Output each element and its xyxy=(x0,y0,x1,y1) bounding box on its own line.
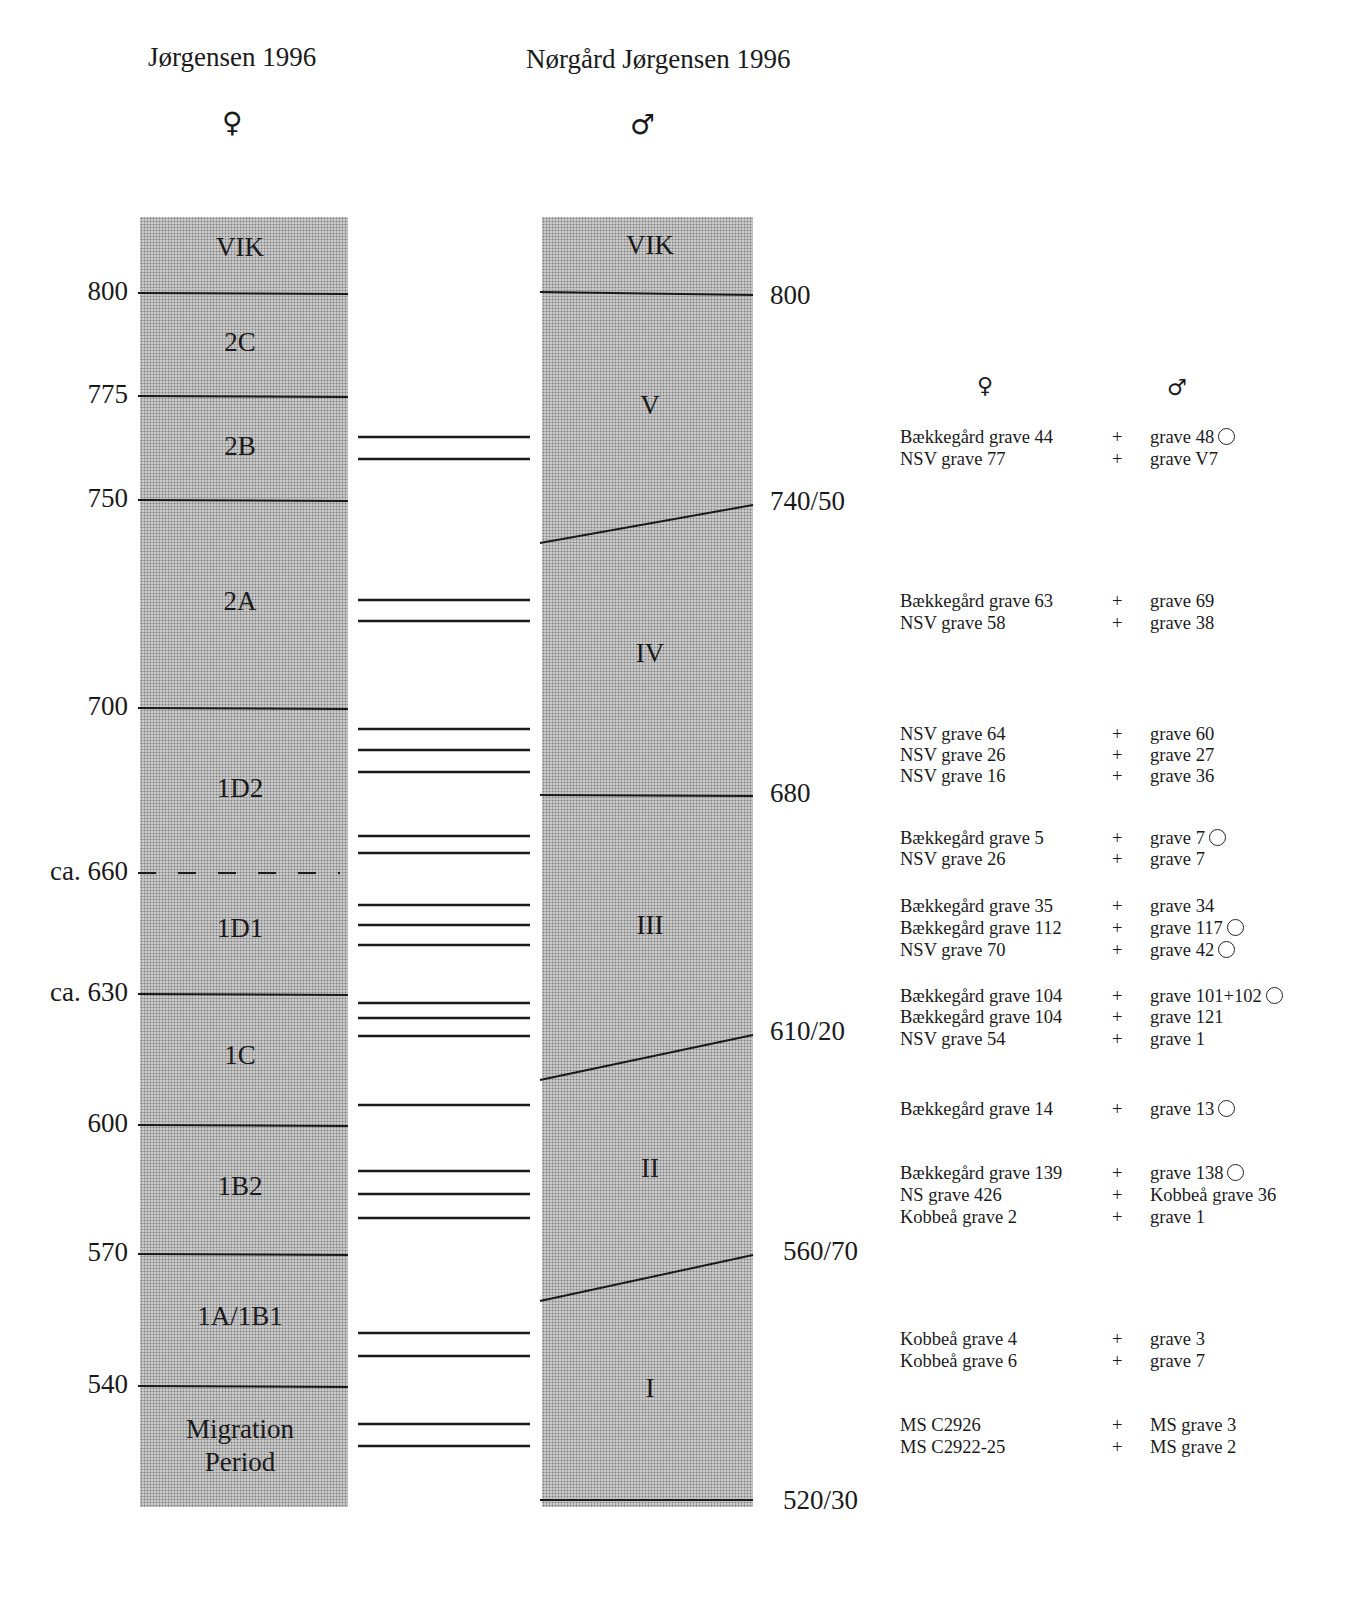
grave-pair-row: Kobbeå grave 6+grave 7 xyxy=(900,1350,1320,1372)
female-grave: Bækkegård grave 63 xyxy=(900,590,1053,612)
grave-pair-row: MS C2926+MS grave 3 xyxy=(900,1414,1320,1436)
left-phase-label: 2A xyxy=(224,586,257,617)
male-grave: grave 13 xyxy=(1150,1099,1214,1119)
circle-marker-icon xyxy=(1227,1164,1244,1181)
right-phase-label: III xyxy=(637,910,664,941)
female-grave: NSV grave 58 xyxy=(900,612,1006,634)
male-grave: MS grave 3 xyxy=(1150,1415,1236,1435)
grave-pair-row: Bækkegård grave 5+grave 7 xyxy=(900,827,1320,849)
right-boundary-line xyxy=(540,795,753,796)
plus-sign: + xyxy=(1112,765,1122,787)
male-grave: grave 60 xyxy=(1150,724,1214,744)
left-phase-label: 1C xyxy=(224,1040,256,1071)
plus-sign: + xyxy=(1112,827,1122,849)
female-grave: NSV grave 26 xyxy=(900,848,1006,870)
female-grave: Bækkegård grave 14 xyxy=(900,1098,1053,1120)
female-grave: Bækkegård grave 35 xyxy=(900,895,1053,917)
grave-pair-row: MS C2922-25+MS grave 2 xyxy=(900,1436,1320,1458)
plus-sign: + xyxy=(1112,1436,1122,1458)
female-grave: NSV grave 64 xyxy=(900,723,1006,745)
right-date-label: 740/50 xyxy=(770,486,845,517)
male-grave: grave 48 xyxy=(1150,427,1214,447)
female-grave: MS C2926 xyxy=(900,1414,981,1436)
plus-sign: + xyxy=(1112,448,1122,470)
left-date-label: 540 xyxy=(88,1369,129,1400)
plus-sign: + xyxy=(1112,1162,1122,1184)
grave-pair-row: Kobbeå grave 2+grave 1 xyxy=(900,1206,1320,1228)
male-grave: grave 1 xyxy=(1150,1207,1205,1227)
grave-pair-row: Bækkegård grave 139+grave 138 xyxy=(900,1162,1320,1184)
left-phase-label: Period xyxy=(205,1446,276,1479)
grave-pair-row: Bækkegård grave 44+grave 48 xyxy=(900,426,1320,448)
male-grave: grave 101+102 xyxy=(1150,986,1262,1006)
plus-sign: + xyxy=(1112,895,1122,917)
plus-sign: + xyxy=(1112,1006,1122,1028)
left-date-label: 775 xyxy=(88,379,129,410)
circle-marker-icon xyxy=(1227,919,1244,936)
male-grave: grave 7 xyxy=(1150,1351,1205,1371)
grave-pair-row: NSV grave 70+grave 42 xyxy=(900,939,1320,961)
male-grave: grave 117 xyxy=(1150,918,1223,938)
plus-sign: + xyxy=(1112,1328,1122,1350)
female-grave: NSV grave 16 xyxy=(900,765,1006,787)
grave-pair-row: Bækkegård grave 112+grave 117 xyxy=(900,917,1320,939)
left-boundary-line xyxy=(138,1386,348,1387)
plus-sign: + xyxy=(1112,612,1122,634)
left-date-label: 600 xyxy=(88,1108,129,1139)
grave-pair-row: Bækkegård grave 63+grave 69 xyxy=(900,590,1320,612)
female-grave: Kobbeå grave 2 xyxy=(900,1206,1017,1228)
pairs-female-header-icon: ♀ xyxy=(977,373,993,398)
right-date-label: 680 xyxy=(770,778,811,809)
grave-pair-row: Bækkegård grave 35+grave 34 xyxy=(900,895,1320,917)
plus-sign: + xyxy=(1112,939,1122,961)
grave-pair-row: Bækkegård grave 104+grave 121 xyxy=(900,1006,1320,1028)
female-grave: NSV grave 77 xyxy=(900,448,1006,470)
plus-sign: + xyxy=(1112,426,1122,448)
left-boundary-line xyxy=(138,994,348,995)
grave-pair-row: NSV grave 26+grave 27 xyxy=(900,744,1320,766)
left-phase-label: 1D2 xyxy=(217,773,264,804)
male-grave: grave 7 xyxy=(1150,849,1205,869)
grave-pair-row: NSV grave 64+grave 60 xyxy=(900,723,1320,745)
left-boundary-line xyxy=(138,293,348,294)
right-phase-label: IV xyxy=(636,638,665,669)
female-grave: Bækkegård grave 5 xyxy=(900,827,1044,849)
male-grave: grave V7 xyxy=(1150,449,1218,469)
right-boundary-line xyxy=(540,1255,753,1301)
female-grave: NS grave 426 xyxy=(900,1184,1002,1206)
grave-pair-row: Bækkegård grave 14+grave 13 xyxy=(900,1098,1320,1120)
left-boundary-line xyxy=(138,1125,348,1126)
left-phase-label: Migration xyxy=(186,1413,294,1446)
right-boundary-line xyxy=(540,292,753,295)
circle-marker-icon xyxy=(1209,829,1226,846)
circle-marker-icon xyxy=(1266,987,1283,1004)
female-grave: NSV grave 26 xyxy=(900,744,1006,766)
left-boundary-line xyxy=(138,500,348,501)
grave-pair-row: Bækkegård grave 104+grave 101+102 xyxy=(900,985,1320,1007)
right-phase-label: I xyxy=(646,1373,655,1404)
right-date-label: 800 xyxy=(770,280,811,311)
plus-sign: + xyxy=(1112,1414,1122,1436)
male-grave: grave 38 xyxy=(1150,613,1214,633)
plus-sign: + xyxy=(1112,744,1122,766)
female-grave: NSV grave 54 xyxy=(900,1028,1006,1050)
plus-sign: + xyxy=(1112,985,1122,1007)
right-boundary-line xyxy=(540,505,753,543)
female-grave: Kobbeå grave 4 xyxy=(900,1328,1017,1350)
left-boundary-line xyxy=(138,708,348,709)
male-grave: grave 7 xyxy=(1150,828,1205,848)
left-date-label: 570 xyxy=(88,1237,129,1268)
plus-sign: + xyxy=(1112,1206,1122,1228)
female-grave: NSV grave 70 xyxy=(900,939,1006,961)
right-date-label: 610/20 xyxy=(770,1016,845,1047)
plus-sign: + xyxy=(1112,1028,1122,1050)
left-date-label: 700 xyxy=(88,691,129,722)
female-grave: MS C2922-25 xyxy=(900,1436,1005,1458)
left-date-label: 750 xyxy=(88,483,129,514)
female-grave: Kobbeå grave 6 xyxy=(900,1350,1017,1372)
male-grave: grave 42 xyxy=(1150,940,1214,960)
left-phase-label: 2B xyxy=(224,431,256,462)
pairs-male-header-icon: ♂ xyxy=(1167,375,1187,400)
male-grave: Kobbeå grave 36 xyxy=(1150,1185,1276,1205)
male-grave: MS grave 2 xyxy=(1150,1437,1236,1457)
